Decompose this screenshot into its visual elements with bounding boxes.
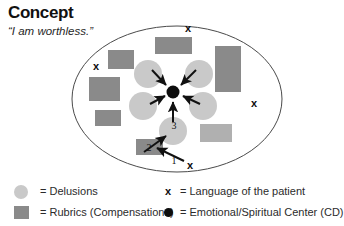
legend-item-label: = Delusions bbox=[36, 185, 98, 198]
delusion-circle bbox=[185, 60, 213, 88]
legend-item-rubrics: = Rubrics (Compensations) bbox=[14, 202, 174, 223]
legend-item-label: = Language of the patient bbox=[176, 185, 305, 198]
legend-item-delusions: = Delusions bbox=[14, 181, 174, 202]
legend-x-glyph: x bbox=[165, 186, 171, 197]
delusion-circle-icon bbox=[14, 185, 36, 199]
rubric-rect bbox=[215, 46, 241, 92]
patient-language-x-mark: x bbox=[251, 97, 258, 109]
rubric-rect bbox=[95, 110, 121, 126]
rubric-rect bbox=[108, 50, 134, 69]
emotional-spiritual-center-dot bbox=[167, 86, 180, 99]
legend-item-label: = Emotional/Spiritual Center (CD) bbox=[176, 206, 344, 219]
patient-language-x-mark: x bbox=[93, 60, 100, 72]
number-label-2: 2 bbox=[147, 142, 152, 153]
number-label-3: 3 bbox=[172, 120, 177, 131]
legend-item-label: = Rubrics (Compensations) bbox=[36, 206, 174, 219]
rubric-rect bbox=[155, 37, 192, 54]
legend-column-left: = Delusions = Rubrics (Compensations) bbox=[14, 181, 174, 223]
rubric-rect bbox=[89, 77, 120, 101]
patient-language-x-mark: x bbox=[187, 159, 194, 171]
delusion-circle bbox=[189, 92, 217, 120]
legend-item-center: = Emotional/Spiritual Center (CD) bbox=[160, 202, 344, 223]
delusion-circle bbox=[129, 92, 157, 120]
legend-item-patient-language: x = Language of the patient bbox=[160, 181, 344, 202]
delusion-circle bbox=[134, 60, 162, 88]
center-dot-icon bbox=[160, 208, 176, 217]
rubric-rect bbox=[200, 124, 232, 142]
legend: = Delusions = Rubrics (Compensations) x … bbox=[0, 181, 336, 226]
legend-column-right: x = Language of the patient = Emotional/… bbox=[160, 181, 344, 223]
patient-language-x-mark: x bbox=[185, 22, 192, 34]
patient-language-x-icon: x bbox=[160, 186, 176, 197]
number-label-1: 1 bbox=[172, 155, 177, 166]
rubric-square-icon bbox=[14, 206, 36, 219]
